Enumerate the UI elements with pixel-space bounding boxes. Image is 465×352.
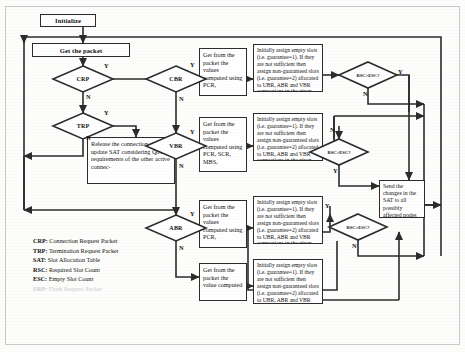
page-border: [5, 6, 460, 345]
flowchart-canvas: Initialize Get the packet Release the co…: [0, 0, 465, 352]
